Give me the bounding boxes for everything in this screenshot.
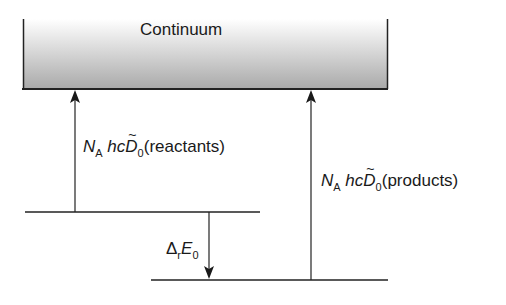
products-dissociation-label: NA hcD0(products) xyxy=(321,172,458,189)
energy-diagram-canvas xyxy=(0,0,506,305)
reactants-dissociation-label: NA hcD0(reactants) xyxy=(83,138,225,155)
arrow-down-reaction-energy xyxy=(204,212,214,279)
arrow-up-products xyxy=(306,90,316,280)
arrow-up-reactants xyxy=(70,90,80,212)
continuum-label: Continuum xyxy=(140,20,222,40)
reaction-energy-label: ΔrE0 xyxy=(166,240,199,257)
